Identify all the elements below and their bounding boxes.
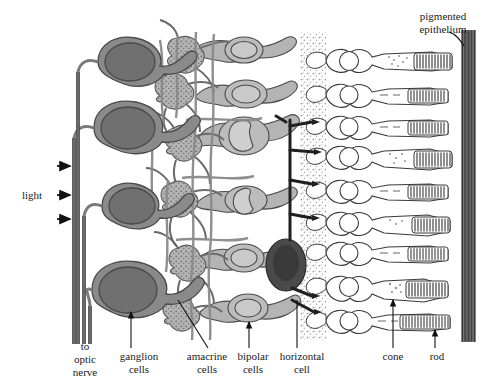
light-label: light	[22, 189, 42, 201]
optic-nerve-label-3: nerve	[73, 366, 98, 378]
pigmented-epithelium	[462, 30, 475, 342]
amacrine-label-2: cells	[197, 363, 217, 375]
bipolar-label-2: cells	[243, 363, 263, 375]
optic-nerve-label-2: optic	[74, 353, 96, 365]
ganglion-label-2: cells	[129, 363, 149, 375]
retina-diagram: light to optic nerve ganglion cells amac…	[0, 0, 495, 390]
amacrine-label-1: amacrine	[187, 350, 227, 362]
photoreceptor-layer	[306, 49, 452, 333]
horizontal-label-2: cell	[294, 363, 310, 375]
optic-nerve-label-1: to	[81, 340, 90, 352]
pigmented-label-1: pigmented	[420, 10, 467, 22]
pigmented-label-2: epithelium	[419, 23, 466, 35]
horizontal-label-1: horizontal	[280, 350, 325, 362]
bipolar-label-1: bipolar	[237, 350, 268, 362]
rod-label: rod	[430, 350, 445, 362]
ganglion-label-1: ganglion	[120, 350, 159, 362]
cone-label: cone	[383, 350, 404, 362]
